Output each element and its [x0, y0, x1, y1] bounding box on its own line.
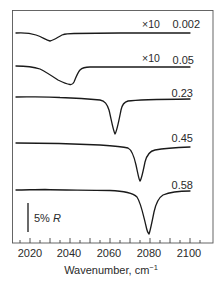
scale-bar-label: 5% R — [34, 212, 61, 224]
series-label-0.002: 0.002 — [172, 18, 200, 30]
series-label-0.45: 0.45 — [172, 132, 193, 144]
trace-0.05 — [16, 66, 190, 85]
trace-0.23 — [16, 97, 190, 134]
tick-label-2060: 2060 — [97, 247, 121, 259]
ir-spectra-chart: 5% R ×10 0.002 ×10 0.05 0.23 0.45 0.58 2… — [0, 0, 223, 287]
x-axis-tick-labels: 2020 2040 2060 2080 2100 — [18, 247, 201, 259]
tick-label-2100: 2100 — [177, 247, 201, 259]
tick-label-2040: 2040 — [57, 247, 81, 259]
series-label-0.05: 0.05 — [173, 54, 194, 66]
trace-0.002 — [16, 33, 190, 41]
multiplier-label-0.002: ×10 — [142, 18, 160, 30]
x-axis-ticks — [20, 238, 200, 243]
trace-0.45 — [16, 143, 190, 181]
series-label-0.23: 0.23 — [172, 87, 193, 99]
tick-label-2020: 2020 — [18, 247, 42, 259]
tick-label-2080: 2080 — [137, 247, 161, 259]
multiplier-label-0.05: ×10 — [142, 52, 160, 64]
series-label-0.58: 0.58 — [172, 179, 193, 191]
x-axis-title: Wavenumber, cm−1 — [64, 263, 158, 276]
